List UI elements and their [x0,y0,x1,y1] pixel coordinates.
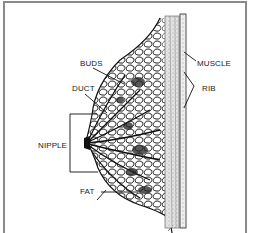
label-duct: DUCT [72,84,95,93]
nipple-shape [84,136,90,150]
label-fat: FAT [80,187,94,196]
chest-wall [165,14,186,228]
breast-tissue [80,15,175,233]
label-buds: BUDS [80,59,103,68]
label-nipple: NIPPLE [38,141,67,150]
label-rib: RIB [202,84,216,93]
label-muscle: MUSCLE [197,59,231,68]
breast-anatomy-diagram: BUDS DUCT NIPPLE FAT MUSCLE RIB [0,0,253,233]
